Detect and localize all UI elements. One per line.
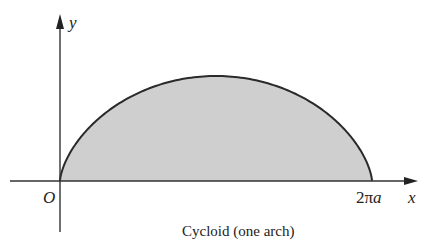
x-end-label: 2πa: [356, 188, 382, 207]
caption: Cycloid (one arch): [182, 223, 294, 240]
cycloid-diagram: y O 2πa x Cycloid (one arch): [0, 0, 427, 252]
x-axis-label: x: [407, 188, 416, 207]
y-axis-arrow-icon: [56, 14, 64, 29]
arch-region: [60, 76, 372, 181]
origin-label: O: [43, 188, 55, 207]
y-axis-label: y: [67, 13, 77, 32]
x-axis-arrow-icon: [404, 177, 418, 185]
